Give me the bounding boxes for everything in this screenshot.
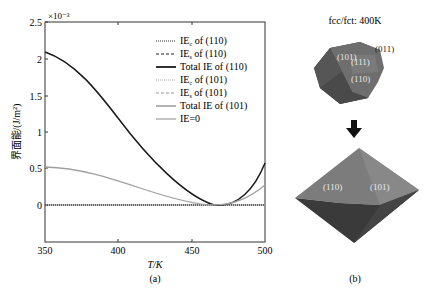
- svg-text:Total IE of (101): Total IE of (101): [180, 100, 247, 112]
- svg-text:0.5: 0.5: [30, 163, 43, 174]
- plot-frame: [45, 22, 265, 242]
- svg-text:IEc of (101): IEc of (101): [180, 74, 227, 86]
- panel-a-caption: (a): [149, 273, 160, 285]
- total-ie-110-curve: [45, 52, 265, 205]
- chart-legend: IEc of (110) IEs of (110) Total IE of (1…: [156, 35, 247, 124]
- y-exponent: ×10⁻³: [48, 11, 70, 21]
- svg-text:0: 0: [37, 200, 42, 211]
- svg-text:IEs of (110): IEs of (110): [180, 48, 226, 60]
- panel-b-title: fcc/fct: 400K: [328, 15, 382, 26]
- svg-text:IE=0: IE=0: [180, 113, 200, 124]
- label-011-top: (011): [375, 44, 394, 54]
- svg-text:1: 1: [37, 127, 42, 138]
- svg-text:400: 400: [111, 245, 126, 256]
- total-ie-101-curve: [45, 167, 265, 205]
- label-101-octa: (101): [370, 182, 390, 192]
- octahedron: [295, 148, 419, 243]
- svg-text:2: 2: [37, 54, 42, 65]
- svg-text:IEc of (110): IEc of (110): [180, 35, 227, 47]
- x-axis-label: T/K: [147, 259, 163, 270]
- label-110-top: (110): [351, 74, 370, 84]
- y-axis-label: 界面能/(J/m²): [10, 104, 23, 161]
- svg-text:2.5: 2.5: [30, 17, 43, 28]
- crystal-shapes-panel: fcc/fct: 400K (101) (111) (110) (011) (1…: [280, 0, 429, 299]
- panel-b-caption: (b): [349, 273, 361, 285]
- interface-energy-chart: ×10⁻³ 2.5 2 1.5 1 0.5 0 350 400 450 500 …: [0, 0, 280, 299]
- down-arrow-icon: [346, 120, 362, 138]
- svg-text:1.5: 1.5: [30, 91, 43, 102]
- svg-text:IEs of (101): IEs of (101): [180, 87, 227, 99]
- svg-text:350: 350: [38, 245, 53, 256]
- x-axis-ticks: 350 400 450 500: [38, 22, 273, 256]
- label-110-octa: (110): [323, 182, 342, 192]
- label-111-top: (111): [351, 57, 370, 67]
- svg-text:Total IE of (110): Total IE of (110): [180, 61, 247, 73]
- svg-text:500: 500: [258, 245, 273, 256]
- svg-text:450: 450: [185, 245, 200, 256]
